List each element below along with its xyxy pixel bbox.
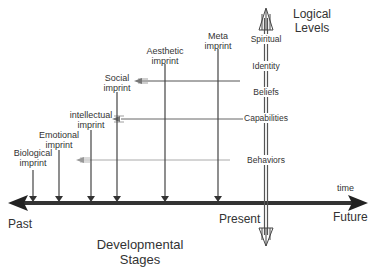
- level-label-capabilities: Capabilities: [243, 113, 289, 123]
- imprint-line1: Social: [96, 73, 138, 83]
- developmental-stages-label: Developmental Stages: [90, 237, 190, 267]
- level-label-identity: Identity: [251, 61, 280, 71]
- level-label-behaviors: Behaviors: [246, 155, 286, 165]
- imprint-arrows: [29, 49, 222, 202]
- imprint-label-social: Social imprint: [96, 73, 138, 93]
- imprint-line2: imprint: [142, 56, 188, 66]
- future-label: Future: [333, 210, 368, 224]
- imprint-line1: Meta: [198, 31, 238, 41]
- level-label-spiritual: Spiritual: [250, 34, 283, 44]
- imprint-line2: imprint: [198, 41, 238, 51]
- imprint-label-meta: Meta imprint: [198, 31, 238, 51]
- title-line2: Levels: [287, 21, 337, 35]
- imprint-line2: imprint: [96, 83, 138, 93]
- imprint-line2: imprint: [38, 140, 80, 150]
- level-label-beliefs: Beliefs: [252, 87, 280, 97]
- imprint-label-aesthetic: Aesthetic imprint: [142, 46, 188, 66]
- past-label: Past: [8, 217, 32, 231]
- imprint-label-emotional: Emotional imprint: [38, 130, 80, 150]
- imprint-line1: intellectual: [68, 110, 114, 120]
- time-label: time: [337, 183, 354, 193]
- imprint-line2: imprint: [68, 120, 114, 130]
- logical-levels-title: Logical Levels: [287, 7, 337, 35]
- title-line1: Logical: [287, 7, 337, 21]
- imprint-line2: imprint: [12, 158, 54, 168]
- imprint-label-intellectual: intellectual imprint: [68, 110, 114, 130]
- imprint-line1: Emotional: [38, 130, 80, 140]
- footer-line2: Stages: [90, 252, 190, 267]
- footer-line1: Developmental: [90, 237, 190, 252]
- imprint-label-biological: Biological imprint: [12, 148, 54, 168]
- imprint-line1: Aesthetic: [142, 46, 188, 56]
- present-label: Present: [219, 212, 260, 226]
